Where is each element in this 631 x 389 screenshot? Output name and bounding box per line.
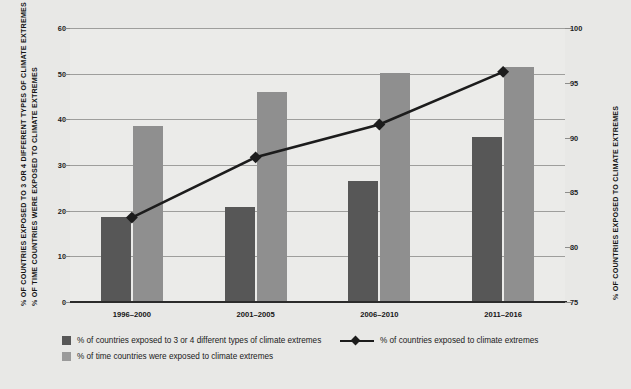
tickmark <box>63 119 70 120</box>
legend-swatch-dark-icon <box>62 336 71 345</box>
line-series <box>70 28 565 302</box>
y-axis-right-ticks: 1009590858075 <box>570 0 596 389</box>
line-marker-diamond <box>250 151 262 163</box>
plot-area <box>70 28 565 302</box>
line-marker-diamond <box>497 66 509 78</box>
legend-label: % of time countries were exposed to clim… <box>77 352 273 361</box>
tickmark <box>565 302 572 303</box>
tickmark <box>63 28 70 29</box>
legend-line-diamond-icon <box>340 336 374 345</box>
legend-label: % of countries exposed to climate extrem… <box>380 336 538 345</box>
tickmark <box>63 165 70 166</box>
legend-item-dark-bars: % of countries exposed to 3 or 4 differe… <box>62 336 321 345</box>
chart-legend: % of countries exposed to 3 or 4 differe… <box>62 334 622 374</box>
y-tick-label-right: 80 <box>570 243 596 252</box>
y-axis-title-left-primary: % OF COUNTRIES EXPOSED TO 3 OR 4 DIFFERE… <box>20 2 28 306</box>
tickmark <box>565 192 572 193</box>
y-axis-title-right: % OF COUNTRIES EXPOSED TO CLIMATE EXTREM… <box>612 106 620 300</box>
tickmark <box>565 28 572 29</box>
y-axis-title-left-secondary: % OF TIME COUNTRIES WERE EXPOSED TO CLIM… <box>31 67 39 306</box>
y-axis-left-ticks: 6050403020100 <box>44 0 66 389</box>
tickmark <box>63 256 70 257</box>
y-tick-label-right: 75 <box>570 298 596 307</box>
x-axis-line <box>70 301 567 303</box>
x-tick-label: 2011–2016 <box>453 310 553 319</box>
tickmark <box>63 74 70 75</box>
legend-item-light-bars: % of time countries were exposed to clim… <box>62 352 273 361</box>
y-tick-label-right: 100 <box>570 24 596 33</box>
line-marker-diamond <box>126 212 138 224</box>
tickmark <box>63 211 70 212</box>
legend-item-line: % of countries exposed to climate extrem… <box>340 336 538 345</box>
x-tick-label: 2006–2010 <box>329 310 429 319</box>
x-tick-label: 1996–2000 <box>82 310 182 319</box>
tickmark <box>63 302 70 303</box>
tickmark <box>565 247 572 248</box>
tickmark <box>565 138 572 139</box>
tickmark <box>565 83 572 84</box>
legend-label: % of countries exposed to 3 or 4 differe… <box>77 336 321 345</box>
line-marker-diamond <box>373 119 385 131</box>
y-tick-label-right: 85 <box>570 188 596 197</box>
line-path <box>132 72 503 218</box>
y-tick-label-right: 90 <box>570 134 596 143</box>
y-tick-label-right: 95 <box>570 79 596 88</box>
legend-swatch-light-icon <box>62 352 71 361</box>
x-tick-label: 2001–2005 <box>206 310 306 319</box>
chart-figure: % OF COUNTRIES EXPOSED TO 3 OR 4 DIFFERE… <box>0 0 631 389</box>
